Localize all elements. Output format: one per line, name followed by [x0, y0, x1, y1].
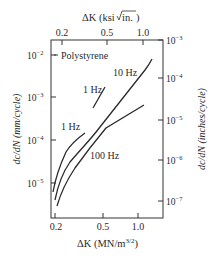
- left-tick-base: 10: [27, 93, 37, 103]
- series-label-1hz-upper: 1 Hz: [83, 84, 103, 95]
- right-tick-base: 10: [166, 74, 176, 84]
- right-tick-exp: −7: [176, 195, 184, 202]
- right-tick-base: 10: [166, 116, 176, 126]
- bottom-tick-label: 0.5: [97, 221, 110, 232]
- left-tick-labels: 10−2 10−3 10−4 10−5: [27, 49, 44, 189]
- right-tick-base: 10: [166, 197, 176, 207]
- right-axis: [158, 40, 163, 201]
- svg-text:10−4: 10−4: [27, 134, 44, 146]
- svg-text:10−7: 10−7: [166, 195, 183, 207]
- top-tick-label: 1.0: [137, 27, 150, 38]
- svg-text:10−2: 10−2: [27, 49, 43, 61]
- top-axis: [62, 40, 143, 45]
- svg-text:10−5: 10−5: [27, 177, 43, 189]
- left-axis: [51, 55, 56, 183]
- bottom-tick-label: 1.0: [132, 221, 145, 232]
- top-axis-title-prefix: ΔK (ksi: [82, 12, 115, 24]
- curves: [53, 59, 152, 206]
- right-tick-labels: 10−3 10−4 10−5 10−6 10−7: [166, 34, 183, 207]
- left-tick-exp: −3: [37, 91, 44, 98]
- top-axis-title-root: in.: [122, 12, 133, 23]
- bottom-axis-title-close: ): [134, 238, 138, 250]
- top-tick-label: 0.5: [101, 27, 114, 38]
- left-tick-base: 10: [27, 136, 37, 146]
- left-tick-exp: −5: [37, 177, 44, 184]
- left-tick-exp: −2: [37, 49, 44, 56]
- right-tick-exp: −3: [176, 34, 183, 41]
- right-axis-title: dc/dN (inches/cycle): [196, 87, 208, 170]
- bottom-axis-title-main: ΔK (MN/m: [77, 238, 125, 250]
- top-tick-label: 0.2: [56, 27, 69, 38]
- bottom-axis: [55, 213, 138, 218]
- right-tick-exp: −6: [176, 154, 184, 161]
- top-axis-title-close: ): [136, 12, 140, 24]
- right-tick-exp: −4: [176, 72, 184, 79]
- right-tick-exp: −5: [176, 114, 183, 121]
- right-tick-base: 10: [166, 36, 176, 46]
- bottom-axis-title: ΔK (MN/m3/2): [77, 237, 138, 250]
- left-tick-base: 10: [27, 179, 37, 189]
- svg-text:10−4: 10−4: [166, 72, 183, 84]
- svg-text:10−5: 10−5: [166, 114, 182, 126]
- material-label: Polystyrene: [61, 50, 109, 61]
- series-label-10hz: 10 Hz: [113, 67, 138, 78]
- svg-text:ΔK (MN/m3/2): ΔK (MN/m3/2): [77, 237, 138, 250]
- left-tick-base: 10: [27, 51, 37, 61]
- right-tick-base: 10: [166, 156, 176, 166]
- series-label-100hz: 100 Hz: [90, 150, 120, 161]
- svg-text:10−3: 10−3: [166, 34, 182, 46]
- svg-text:10−3: 10−3: [27, 91, 43, 103]
- svg-text:10−6: 10−6: [166, 154, 183, 166]
- bottom-tick-label: 0.2: [50, 221, 63, 232]
- series-label-1hz-lower: 1 Hz: [61, 121, 81, 132]
- fatigue-crack-growth-chart: 0.2 0.5 1.0 ΔK (ksi in. ) 0.2 0.5 1.0 ΔK…: [0, 0, 214, 261]
- left-tick-exp: −4: [37, 134, 45, 141]
- left-axis-title: dc/dN (mm/cycle): [11, 93, 23, 164]
- top-axis-title: ΔK (ksi in. ): [82, 11, 140, 24]
